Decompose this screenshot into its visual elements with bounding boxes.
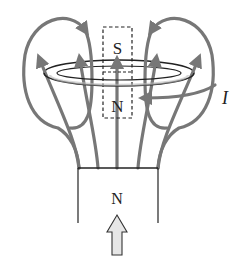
magnet-n-label: N xyxy=(111,190,123,207)
equivalent-magnet-n-label: N xyxy=(111,97,123,116)
ring-back xyxy=(44,60,194,73)
current-label: I xyxy=(221,88,229,108)
up-arrow-icon xyxy=(107,215,127,255)
equivalent-magnet-s-label: S xyxy=(113,39,122,58)
current-ring xyxy=(44,73,194,86)
current-direction-line xyxy=(145,85,215,98)
magnetic-induction-diagram: S N I N xyxy=(0,0,237,259)
bar-magnet: N xyxy=(78,168,158,223)
